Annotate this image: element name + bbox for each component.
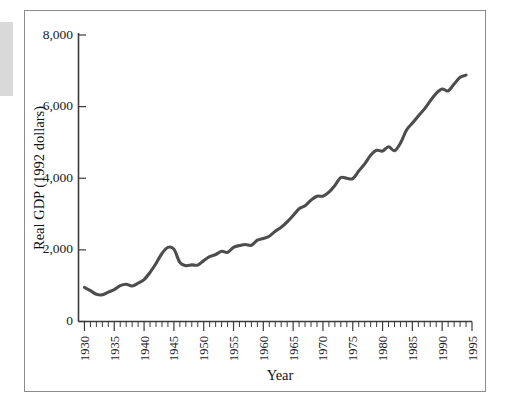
chart-page: 02,0004,0006,0008,000 193019351940194519… (0, 0, 506, 415)
x-tick-label-1995: 1995 (466, 336, 480, 361)
x-tick-label-1990: 1990 (436, 336, 450, 361)
x-axis-minor-ticks (90, 322, 466, 328)
y-tick-label-8000: 8,000 (43, 27, 74, 42)
x-tick-label-1980: 1980 (376, 336, 390, 361)
axes-group (79, 33, 473, 322)
x-tick-label-1935: 1935 (108, 336, 122, 361)
x-tick-label-1970: 1970 (316, 336, 330, 361)
x-tick-label-1960: 1960 (257, 336, 271, 361)
x-tick-label-1975: 1975 (346, 336, 360, 361)
x-axis-tick-labels: 1930193519401945195019551960196519701975… (78, 336, 480, 361)
x-tick-label-1955: 1955 (227, 336, 241, 361)
x-tick-label-1985: 1985 (406, 336, 420, 361)
y-axis-title: Real GDP (1992 dollars) (31, 106, 48, 250)
y-tick-label-0: 0 (66, 313, 73, 328)
x-axis-major-ticks (84, 322, 472, 332)
x-axis-title: Year (267, 367, 294, 383)
y-axis-tick-labels: 02,0004,0006,0008,000 (43, 27, 74, 329)
x-tick-label-1940: 1940 (138, 336, 152, 361)
x-tick-label-1930: 1930 (78, 336, 92, 361)
x-tick-label-1945: 1945 (167, 336, 181, 361)
y-axis-ticks (79, 35, 87, 322)
x-tick-label-1950: 1950 (197, 336, 211, 361)
gdp-series-line (84, 75, 466, 295)
y-tick-label-2000: 2,000 (43, 241, 74, 256)
y-tick-label-4000: 4,000 (43, 170, 74, 185)
x-tick-label-1965: 1965 (287, 336, 301, 361)
y-tick-label-6000: 6,000 (43, 98, 74, 113)
gdp-line-chart: 02,0004,0006,0008,000 193019351940194519… (0, 0, 506, 415)
